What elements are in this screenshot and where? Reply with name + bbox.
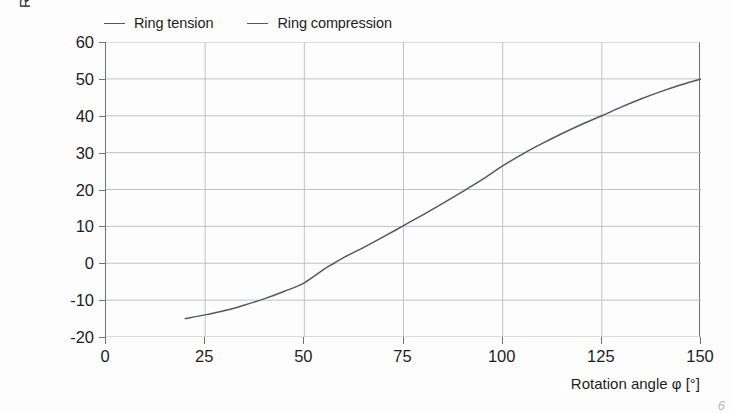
y-axis-tick-labels: 6050403020100-10-20	[42, 42, 94, 337]
y-tick-label: -10	[50, 291, 94, 310]
y-axis-title: Ring normal force [kN]	[16, 0, 42, 81]
legend-line-icon	[104, 23, 125, 24]
y-tick-label: 40	[50, 106, 94, 125]
legend-line-icon	[247, 23, 268, 24]
plot-area	[105, 42, 700, 337]
y-tick-label: 20	[50, 180, 94, 199]
x-tick-label: 125	[587, 347, 615, 366]
x-tick-label: 0	[100, 347, 109, 366]
y-tick-label: 30	[50, 143, 94, 162]
x-tick-mark	[403, 337, 404, 344]
legend-entry-ring-tension: Ring tension	[104, 15, 213, 31]
y-tick-label: 50	[50, 69, 94, 88]
x-axis-tick-marks	[105, 337, 700, 345]
x-tick-mark	[502, 337, 503, 344]
y-tick-label: 60	[50, 33, 94, 52]
x-tick-label: 100	[488, 347, 516, 366]
data-series-curve	[106, 42, 701, 337]
page-corner-artifact: 6	[718, 398, 725, 413]
x-tick-mark	[204, 337, 205, 344]
x-tick-mark	[105, 337, 106, 344]
chart-figure: Ring tension Ring compression Ring norma…	[0, 0, 733, 413]
x-tick-label: 75	[393, 347, 411, 366]
x-axis-tick-labels: 0255075100125150	[105, 347, 700, 371]
x-axis-title: Rotation angle φ [°]	[400, 375, 700, 392]
ring-normal-force-line	[185, 79, 701, 319]
x-tick-mark	[700, 337, 701, 344]
legend-label-ring-compression: Ring compression	[277, 15, 391, 31]
x-tick-label: 50	[294, 347, 312, 366]
y-tick-label: -20	[50, 328, 94, 347]
y-tick-label: 10	[50, 217, 94, 236]
x-tick-mark	[601, 337, 602, 344]
chart-legend: Ring tension Ring compression	[104, 12, 392, 34]
y-axis-title-text: Ring normal force [kN]	[16, 0, 33, 81]
y-tick-label: 0	[50, 254, 94, 273]
x-tick-mark	[303, 337, 304, 344]
x-tick-label: 25	[195, 347, 213, 366]
x-tick-label: 150	[686, 347, 714, 366]
legend-label-ring-tension: Ring tension	[134, 15, 213, 31]
legend-entry-ring-compression: Ring compression	[247, 15, 391, 31]
